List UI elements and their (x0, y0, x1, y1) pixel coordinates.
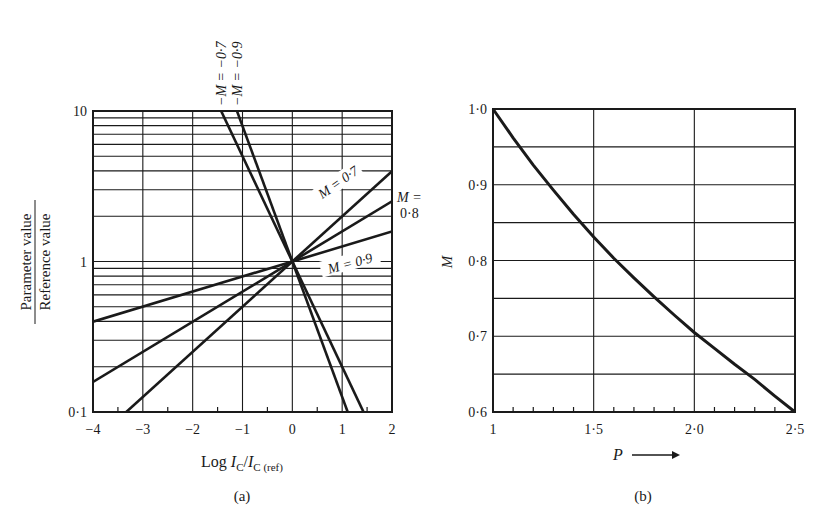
x-tick-label: 2 (389, 422, 396, 437)
x-axis-label: P (612, 446, 623, 463)
grid (493, 109, 795, 412)
y-axis-label: M (439, 254, 455, 269)
figure: −4−3−2−10120·1110Parameter valueReferenc… (0, 0, 827, 531)
x-tick-label: 1 (339, 422, 346, 437)
x-tick-label: −1 (235, 422, 250, 437)
panel-label: (b) (634, 488, 652, 505)
x-tick-label: 0 (289, 422, 296, 437)
x-tick-label: 2·0 (685, 422, 704, 437)
annotation-m-08-line2: 0·8 (400, 206, 419, 221)
x-tick-label: 1·5 (584, 422, 603, 437)
x-axis-label: Log IC/IC (ref) (201, 453, 283, 474)
y-tick-label: 0·1 (68, 405, 87, 420)
y-axis-label: Parameter valueReference value (18, 200, 53, 324)
x-tick-label: 1 (490, 422, 497, 437)
y-tick-label: 1 (80, 255, 87, 270)
panel-label: (a) (234, 488, 251, 505)
annotation-m-08-line1: M = (396, 190, 422, 205)
svg-text:Reference value: Reference value (37, 213, 53, 310)
y-tick-label: 1·0 (468, 102, 487, 117)
y-tick-label: 0·9 (468, 178, 487, 193)
svg-text:Parameter value: Parameter value (18, 213, 34, 310)
y-tick-label: 0·8 (468, 254, 487, 269)
y-tick-label: 0·7 (468, 329, 487, 344)
annotation-m-07: M = 0·7 (314, 163, 362, 203)
chart-b: 11·52·02·50·60·70·80·91·0MP(b) (439, 102, 804, 505)
x-tick-label: −4 (86, 422, 101, 437)
x-tick-label: −2 (185, 422, 200, 437)
y-tick-label: 10 (73, 104, 87, 119)
x-tick-label: −3 (135, 422, 150, 437)
x-tick-label: 2·5 (786, 422, 805, 437)
annotation-neg-m-07: −M = −0·7 (214, 40, 229, 106)
annotation-neg-m-09: −M = −0·9 (230, 41, 245, 106)
y-tick-label: 0·6 (468, 405, 487, 420)
chart-a: −4−3−2−10120·1110Parameter valueReferenc… (18, 0, 422, 531)
